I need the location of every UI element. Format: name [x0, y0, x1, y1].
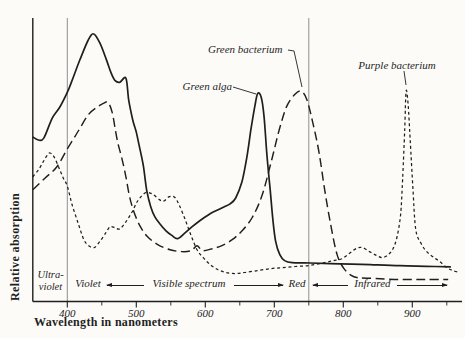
green-alga-label: Green alga [174, 80, 232, 92]
purple-bacterium-label: Purple bacterium [352, 59, 442, 71]
x-tick-label: 700 [266, 307, 283, 319]
reference-lines [67, 18, 308, 302]
green-bacterium-pointer-line [288, 50, 302, 87]
annotation-pointer-lines [233, 50, 406, 94]
x-axis-title: Wavelength in nanometers [34, 315, 178, 330]
purple-bacterium-pointer-line [404, 71, 406, 85]
curve-purple-bacterium [33, 90, 459, 273]
infrared-left-arrow [313, 285, 348, 286]
x-tick-label: 900 [404, 307, 421, 319]
ultraviolet-band-label: Ultra- violet [35, 269, 66, 292]
x-tick-label: 600 [197, 307, 214, 319]
infrared-right-arrow [397, 285, 447, 286]
visible-spectrum-band-label: Visible spectrum [146, 278, 232, 290]
green-alga-pointer-line [233, 87, 256, 94]
green-bacterium-label: Green bacterium [208, 43, 292, 55]
visible-spectrum-left-arrow [107, 285, 144, 286]
absorption-spectra-figure: 400500600700800900 Relative absorption W… [0, 0, 465, 338]
visible-spectrum-right-arrow [234, 285, 283, 286]
y-axis-title: Relative absorption [8, 193, 23, 301]
violet-band-label: Violet [71, 278, 105, 290]
infrared-band-label: Infrared [350, 278, 395, 290]
x-tick-label: 800 [335, 307, 352, 319]
red-band-label: Red [285, 278, 309, 290]
